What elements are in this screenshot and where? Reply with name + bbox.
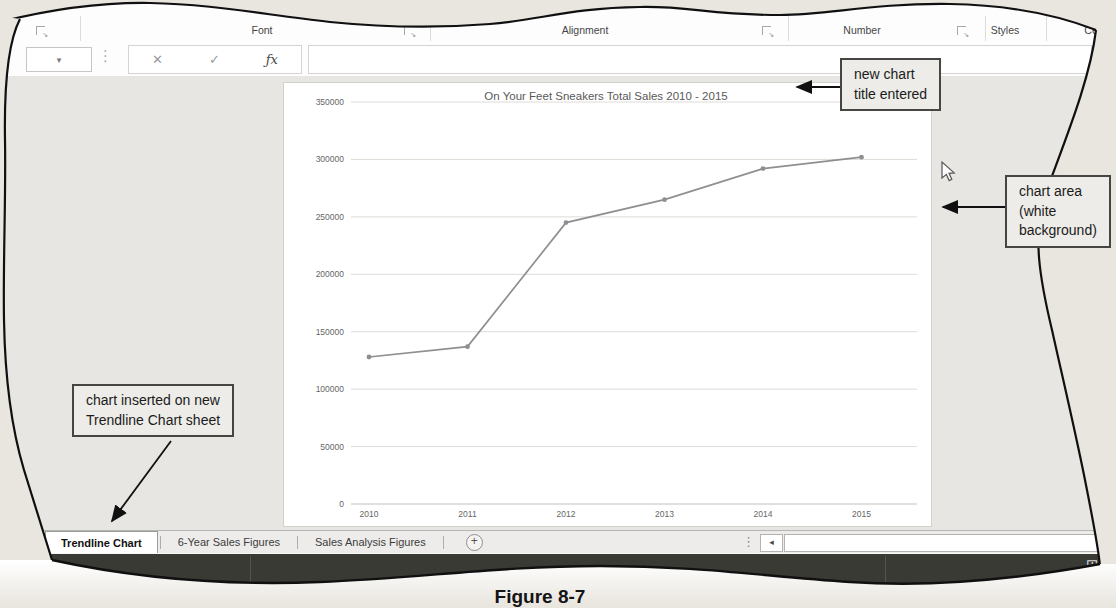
name-box[interactable]: ▾ [26,47,92,72]
callout-line: new chart [854,65,927,85]
dialog-launcher-icon[interactable]: ↘ [957,26,966,35]
status-bar-separator [885,556,886,584]
insert-function-icon[interactable]: ƒx [266,52,278,67]
horizontal-scrollbar[interactable] [784,534,1107,552]
callout-chart-area: chart area(whitebackground) [1005,175,1111,248]
formula-bar: ▾ ⋮ ✕ ✓ ƒx [0,43,1116,77]
ribbon-group-label-font: Font [251,24,272,36]
launcher-arrow-icon: ↘ [42,31,48,39]
data-point-marker [662,197,667,202]
ribbon-group-separator [985,16,986,41]
callout-line: (white [1019,202,1097,222]
mouse-cursor-icon [938,160,960,184]
data-point-marker [465,344,470,349]
x-axis-tick-label: 2010 [360,509,379,519]
x-axis-tick-label: 2015 [852,509,871,519]
ribbon-group-label-styles: Styles [991,24,1020,36]
ribbon-group-label-alignment: Alignment [562,24,609,36]
figure-caption: Figure 8-7 [440,586,640,608]
callout-line: chart area [1019,182,1097,202]
cancel-icon[interactable]: ✕ [152,52,163,67]
ribbon-group-label-cells: Cells [1084,24,1107,36]
y-axis-tick-label: 0 [339,499,344,509]
x-axis-tick-label: 2011 [458,509,477,519]
data-point-marker [367,355,372,360]
ribbon-group-label-number: Number [843,24,880,36]
launcher-arrow-icon: ↘ [768,31,774,39]
data-point-marker [564,220,569,225]
y-axis-tick-label: 250000 [316,212,345,222]
formula-bar-buttons: ✕ ✓ ƒx [128,45,302,74]
sheet-tab-6-year-sales-figures[interactable]: 6-Year Sales Figures [163,532,295,553]
launcher-arrow-icon: ↘ [410,31,416,39]
ribbon-group-separator [788,16,789,41]
data-point-marker [859,155,864,160]
x-axis-tick-label: 2013 [655,509,674,519]
ribbon-groups-strip: FontAlignmentNumberStylesCells ↘ ↘ ↘ ↘ [0,0,1116,44]
series-line [369,157,862,357]
y-axis-tick-label: 100000 [316,384,345,394]
y-axis-tick-label: 150000 [316,327,345,337]
sheet-tab-divider [443,536,444,549]
enter-icon[interactable]: ✓ [209,52,220,67]
scroll-left-button[interactable]: ◂ [760,534,783,552]
ribbon-group-separator [1046,16,1047,41]
formula-bar-divider-dots: ⋮ [98,47,113,65]
sheet-tabs: Trendline Chart6-Year Sales FiguresSales… [45,531,483,554]
sheet-tab-divider [160,536,161,549]
y-axis-tick-label: 50000 [320,442,344,452]
sheet-tab-divider [297,536,298,549]
tabbar-divider-dots: ⋮ [742,534,755,549]
sheet-tab-trendline-chart[interactable]: Trendline Chart [45,531,158,554]
ribbon-group-separator [430,16,431,41]
callout-new-chart-title: new charttitle entered [840,58,941,111]
trendline-chart: 0500001000001500002000002500003000003500… [284,83,929,524]
callout-line: title entered [854,85,927,105]
y-axis-tick-label: 200000 [316,269,345,279]
name-box-dropdown-icon[interactable]: ▾ [57,55,62,65]
formula-bar-input[interactable] [308,45,1092,74]
dialog-launcher-icon[interactable]: ↘ [36,26,45,35]
chart-title: On Your Feet Sneakers Total Sales 2010 -… [484,90,727,102]
x-axis-tick-label: 2012 [557,509,576,519]
chart-area[interactable]: 0500001000001500002000002500003000003500… [283,82,932,527]
normal-view-grid-icon[interactable]: ⊞ [1086,556,1099,574]
callout-chart-inserted: chart inserted on newTrendline Chart she… [72,384,234,437]
dialog-launcher-icon[interactable]: ↘ [762,26,771,35]
status-bar-separator [250,556,251,584]
new-sheet-button[interactable]: + [466,534,483,551]
sheet-tab-bar: Trendline Chart6-Year Sales FiguresSales… [0,530,1116,554]
dialog-launcher-icon[interactable]: ↘ [404,26,413,35]
callout-line: chart inserted on new [86,391,220,411]
callout-line: Trendline Chart sheet [86,411,220,431]
callout-line: background) [1019,221,1097,241]
y-axis-tick-label: 350000 [316,97,345,107]
launcher-arrow-icon: ↘ [963,31,969,39]
ribbon-group-separator [80,16,81,41]
data-point-marker [761,166,766,171]
sheet-tab-sales-analysis-figures[interactable]: Sales Analysis Figures [300,532,441,553]
y-axis-tick-label: 300000 [316,154,345,164]
x-axis-tick-label: 2014 [754,509,773,519]
